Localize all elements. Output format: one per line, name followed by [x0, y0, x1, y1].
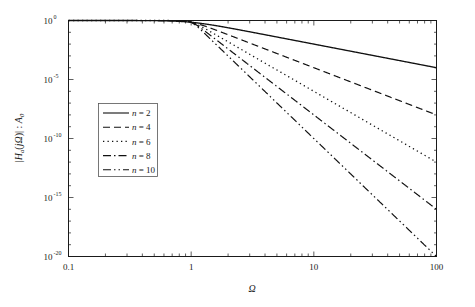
y-tick-exponent: -20 [54, 250, 62, 256]
x-tick-label: 10 [309, 262, 319, 272]
y-tick-mantissa: 10 [44, 16, 54, 26]
y-tick-exponent: 0 [54, 14, 57, 20]
legend-label: n = 10 [132, 165, 156, 175]
legend: n = 2n = 4n = 6n = 8n = 10 [99, 104, 158, 177]
figure-page: 0.1110100 10010-510-1010-1510-20 Ω |Ha(j… [0, 0, 475, 307]
x-tick-label: 0.1 [63, 262, 74, 272]
y-axis-title: |Ha(jΩ)| : A0 [13, 113, 25, 162]
y-tick-exponent: -5 [54, 73, 59, 79]
x-tick-label: 1 [189, 262, 194, 272]
butterworth-magnitude-chart: 0.1110100 10010-510-1010-1510-20 Ω |Ha(j… [0, 0, 475, 307]
y-tick-mantissa: 10 [44, 134, 54, 144]
y-tick-exponent: -10 [54, 132, 62, 138]
legend-label: n = 4 [132, 122, 151, 132]
svg-text:|Ha(jΩ)| : A0: |Ha(jΩ)| : A0 [13, 113, 25, 162]
y-tick-exponent: -15 [54, 191, 62, 197]
legend-label: n = 8 [132, 151, 151, 161]
x-axis-title: Ω [248, 283, 255, 294]
y-tick-mantissa: 10 [44, 252, 54, 262]
y-tick-mantissa: 10 [44, 75, 54, 85]
x-tick-label: 100 [430, 262, 444, 272]
y-tick-mantissa: 10 [44, 193, 54, 203]
legend-label: n = 2 [132, 108, 151, 118]
legend-label: n = 6 [132, 137, 151, 147]
